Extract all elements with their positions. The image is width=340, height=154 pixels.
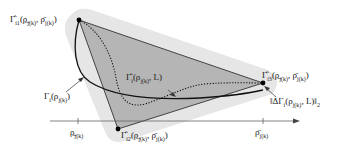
vertex-right-label: Γ̂i3(ρ̲j(k), ρ̄j(k)) (262, 70, 309, 84)
approx-curve-label: Γ̂i(ρj(k), L) (126, 72, 162, 86)
vertex-top-point (77, 18, 82, 23)
axis-arrow-icon (293, 119, 300, 124)
lower-bound-tick-label: ρ̲j(k) (70, 127, 83, 141)
vertex-bottom-label: Γ̂i2(ρ̲j(k), ρ̄j(k)) (121, 130, 168, 144)
true-curve-label: Γi(ρj(k)) (44, 91, 70, 105)
upper-bound-tick-label: ρ̄j(k) (255, 127, 268, 141)
error-norm-label: ‖ΔΓi(ρj(k), L)‖2 (270, 96, 320, 110)
vertex-top-label: Γ̂i1(ρ̲j(k), ρ̄j(k)) (10, 14, 57, 28)
vertex-bottom-point (116, 127, 121, 132)
